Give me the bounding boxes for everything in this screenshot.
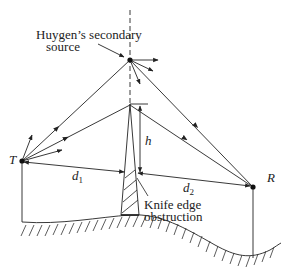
- huygen-label-line2: source: [46, 39, 80, 54]
- transmitter-dot: [19, 158, 24, 163]
- height-label: h: [145, 133, 152, 148]
- receiver-dot: [250, 184, 255, 189]
- d2-dimension-arrow: [138, 173, 250, 186]
- knife-edge-diffraction-diagram: Huygen’s secondary source T R h d1 d2 Kn…: [0, 0, 289, 280]
- transmitter-label: T: [9, 152, 17, 167]
- ray-T-to-source: [22, 60, 130, 161]
- huygen-source-dot: [127, 57, 132, 62]
- huygen-pointer-arrow: [98, 44, 124, 57]
- T-short-ray: [22, 135, 32, 161]
- d2-label: d2: [183, 180, 194, 197]
- knife-pointer-line: [137, 178, 148, 196]
- receiver-label: R: [266, 170, 275, 185]
- ray-T-to-knife: [22, 105, 130, 161]
- knife-label-line2: obstruction: [144, 209, 203, 224]
- d1-label: d1: [72, 168, 83, 185]
- ray-source-to-R: [130, 60, 253, 187]
- knife-edge-obstruction: [121, 104, 139, 215]
